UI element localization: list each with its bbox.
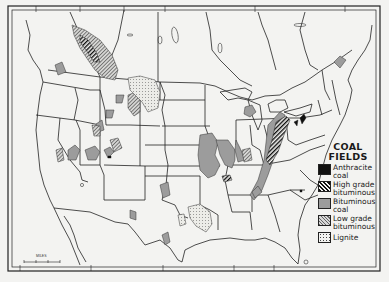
legend-label: High gradebituminous — [333, 181, 375, 196]
legend-label: Low gradebituminous — [333, 215, 375, 230]
legend-label: Anthracitecoal — [333, 164, 372, 179]
anthracite-swatch — [318, 164, 331, 175]
legend-title: COAL FIELDS — [318, 142, 378, 162]
high-grade-bituminous-swatch — [318, 181, 331, 192]
legend-label: Lignite — [333, 232, 358, 243]
scale-bar — [24, 260, 60, 263]
legend-title-line2: FIELDS — [318, 152, 378, 162]
legend-item-anthracite: Anthracitecoal — [318, 164, 388, 179]
legend-item-low-grade-bituminous: Low gradebituminous — [318, 215, 388, 230]
lignite-swatch — [318, 232, 331, 243]
legend-item-bituminous: Bituminouscoal — [318, 198, 388, 213]
scale-units: MILES — [36, 254, 47, 258]
legend-label: Bituminouscoal — [333, 198, 375, 213]
low-grade-bituminous-swatch — [318, 215, 331, 226]
bituminous-swatch — [318, 198, 331, 209]
legend-item-lignite: Lignite — [318, 232, 388, 247]
legend-item-high-grade-bituminous: High gradebituminous — [318, 181, 388, 196]
legend: COAL FIELDS Anthracitecoal High gradebit… — [318, 142, 388, 247]
